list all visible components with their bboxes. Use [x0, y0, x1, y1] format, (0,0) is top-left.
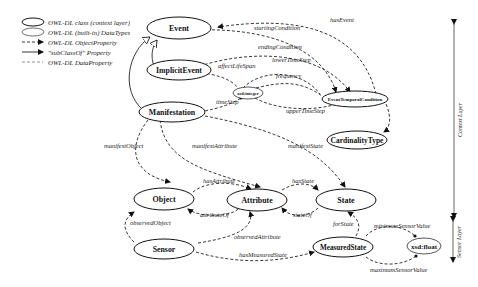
- edge-starting-condition: [197, 30, 336, 92]
- context-layer-label: Context Layer: [457, 102, 463, 137]
- node-measured-state[interactable]: MeasuredState: [313, 237, 373, 257]
- label-manifest-object: manifestObject: [104, 142, 144, 149]
- label-minimum-sensor-value: minimumSensorValue: [374, 222, 430, 229]
- legend-label: "subClassOf" Property: [48, 49, 112, 56]
- node-state[interactable]: State: [316, 189, 376, 211]
- node-attribute[interactable]: Attribute: [227, 189, 287, 211]
- legend-label: OWL-DL class (context layer): [48, 19, 131, 27]
- legend: OWL-DL class (context layer) OWL-DL (bui…: [22, 18, 131, 66]
- edge-maximum-sensor-value: [366, 256, 416, 264]
- sensor-layer-label: Sensor Layer: [456, 225, 462, 257]
- label-has-attribute: hasAttribute: [203, 177, 235, 184]
- label-manifest-attribute: manifestAttribute: [192, 142, 237, 149]
- legend-class-icon: [22, 18, 44, 26]
- node-xsd-integer[interactable]: xsd:integer: [233, 87, 263, 99]
- edge-observed-object: [125, 212, 134, 242]
- label-state-of: stateOf: [293, 211, 313, 218]
- label-upper-time-step: upperTimeStep: [286, 107, 326, 114]
- legend-datatype-icon: [22, 28, 44, 36]
- edge-manifest-object: [136, 120, 170, 182]
- svg-text:State: State: [337, 196, 355, 205]
- edge-frequency: [256, 84, 322, 96]
- label-has-event: hasEvent: [330, 16, 354, 23]
- svg-text:EventTemporalCondition: EventTemporalCondition: [328, 97, 383, 102]
- node-cardinality-type[interactable]: CardinalityType: [327, 131, 387, 149]
- label-ending-condition: endingCondition: [258, 43, 302, 50]
- legend-label: OWL-DL DataProperty: [48, 59, 113, 66]
- label-affect-life-span: affectLifeSpan: [218, 62, 256, 69]
- node-sensor[interactable]: Sensor: [134, 239, 194, 259]
- label-maximum-sensor-value: maximumSensorValue: [370, 266, 428, 273]
- sensor-layer-indicator: Sensor Layer: [453, 221, 462, 262]
- svg-text:xsd:float: xsd:float: [411, 243, 438, 251]
- ontology-diagram: OWL-DL class (context layer) OWL-DL (bui…: [0, 0, 478, 287]
- node-manifestation[interactable]: Manifestation: [139, 102, 205, 122]
- label-has-measured-state: hasMeasuredState: [239, 251, 287, 258]
- node-object[interactable]: Object: [134, 188, 194, 210]
- legend-label: OWL-DL (built-in) DataTypes: [48, 29, 130, 37]
- label-observed-attribute: observedAttribute: [234, 233, 281, 240]
- edge-has-cardinality-type: [384, 104, 390, 132]
- svg-text:ImplicitEvent: ImplicitEvent: [156, 66, 202, 75]
- svg-text:MeasuredState: MeasuredState: [320, 244, 366, 252]
- label-starting-condition: startingCondition: [254, 24, 300, 31]
- svg-text:Manifestation: Manifestation: [149, 108, 196, 117]
- svg-text:Sensor: Sensor: [153, 245, 176, 254]
- label-observed-object: observedObject: [130, 219, 171, 226]
- svg-text:xsd:integer: xsd:integer: [237, 91, 259, 96]
- node-xsd-float[interactable]: xsd:float: [407, 238, 441, 254]
- edge-has-state: [282, 184, 318, 190]
- label-frequency: frequency: [276, 72, 301, 79]
- edge-manifestation-subclass: [129, 37, 150, 110]
- label-manifest-state: manifestState: [288, 142, 323, 149]
- node-event[interactable]: Event: [147, 17, 211, 39]
- svg-text:Attribute: Attribute: [241, 196, 273, 205]
- context-layer-indicator: Context Layer: [454, 24, 463, 218]
- svg-text:Event: Event: [169, 24, 189, 33]
- label-attribute-of: attributeOf: [200, 211, 230, 218]
- label-lower-time-step: lowerTimeStep: [272, 56, 311, 63]
- svg-text:CardinalityType: CardinalityType: [331, 136, 384, 145]
- label-time-step: timeStep: [216, 98, 239, 105]
- node-event-temporal-condition[interactable]: EventTemporalCondition: [322, 91, 388, 107]
- legend-label: OWL-DL ObjectProperty: [48, 39, 118, 46]
- label-has-state: hasState: [292, 177, 314, 184]
- svg-text:Object: Object: [152, 195, 175, 204]
- label-for-state: forState: [333, 220, 354, 227]
- node-implicit-event[interactable]: ImplicitEvent: [147, 60, 211, 80]
